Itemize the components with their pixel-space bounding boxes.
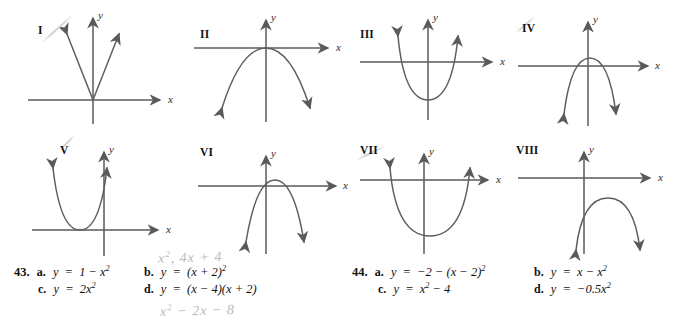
exercise-43-number: 43. <box>14 265 30 279</box>
graph-III-label: III <box>360 28 374 40</box>
exercise-43-d-letter: d. <box>144 282 154 296</box>
graph-VII-y-label: y <box>428 145 434 157</box>
graph-III-x-label: x <box>499 55 505 67</box>
graph-I-y-label: y <box>97 9 103 21</box>
exercise-44-b-rel: = <box>563 265 571 279</box>
parabola-curve <box>576 198 640 250</box>
axes <box>32 152 158 256</box>
pencil-annotation-expansion-bottom: x2 − 2x − 8 <box>160 302 235 320</box>
exercise-43-c-lhs: y <box>53 282 59 296</box>
graph-II: II x y <box>186 4 356 134</box>
exercise-43-a-letter: a. <box>37 265 46 279</box>
parabola-curve <box>390 168 470 236</box>
graph-II-label: II <box>200 28 209 40</box>
graph-VI-y-label: y <box>270 147 276 159</box>
parabola-curve <box>53 168 107 230</box>
exercise-43-b-rhs: (x + 2)2 <box>187 265 226 279</box>
graph-VIII-y-label: y <box>588 143 594 155</box>
exercise-44-c-lhs: y <box>393 282 399 296</box>
graph-III-y-label: y <box>432 11 438 23</box>
exercise-44-b-letter: b. <box>534 265 544 279</box>
exercise-44-d-lhs: y <box>551 282 557 296</box>
axes <box>518 22 648 126</box>
graph-IV: IV x y <box>508 4 677 134</box>
exercise-43-a-lhs: y <box>53 265 59 279</box>
graph-I: I x y <box>18 4 188 134</box>
axes <box>198 156 336 254</box>
worksheet-page: I x y II <box>0 0 677 333</box>
axes <box>360 20 492 120</box>
exercise-44-c-rel: = <box>405 282 413 296</box>
exercise-43-a-rhs: 1 − x2 <box>79 265 110 279</box>
graph-V: V x y <box>18 138 188 268</box>
graph-VI-label: VI <box>200 146 213 158</box>
exercise-43-b-rel: = <box>173 265 181 279</box>
exercise-44-a-letter: a. <box>375 265 384 279</box>
graph-VII-label: VII <box>360 144 378 156</box>
graph-VIII-label: VIII <box>516 144 539 156</box>
exercise-44-c-letter: c. <box>378 282 386 296</box>
exercise-43-b-lhs: y <box>161 265 167 279</box>
graph-II-y-label: y <box>270 11 276 23</box>
exercise-44-a-rhs: −2 − (x − 2)2 <box>417 265 485 279</box>
graph-VII-x-label: x <box>495 173 501 185</box>
graph-III: III x y <box>352 4 522 134</box>
exercise-43-a-rel: = <box>65 265 73 279</box>
exercise-43-item-c: c. y = 2x2 <box>38 283 96 296</box>
graph-IV-y-label: y <box>592 13 598 25</box>
pencil-annotation-expansion-top: x2, 4x + 4 <box>158 249 223 267</box>
exercise-44-number: 44. <box>352 265 368 279</box>
graph-VII-plot: x y <box>352 138 522 268</box>
graph-VIII-x-label: x <box>657 171 663 183</box>
exercise-44-b-rhs: x − x2 <box>577 265 607 279</box>
parabola-curve <box>246 180 304 242</box>
axes <box>518 152 650 254</box>
exercise-44-item-b: b. y = x − x2 <box>534 266 607 279</box>
graph-I-x-label: x <box>167 93 173 105</box>
axes <box>360 154 488 254</box>
exercise-44-item-c: c. y = x2 − 4 <box>378 283 450 296</box>
exercise-43-c-rhs: 2x2 <box>80 282 96 296</box>
axes <box>28 18 160 124</box>
exercise-43-item-b: b. y = (x + 2)2 <box>144 266 226 279</box>
exercise-44-a-lhs: y <box>391 265 397 279</box>
graph-III-plot: x y <box>352 4 522 134</box>
exercise-44-d-rhs: −0.5x2 <box>577 282 611 296</box>
exercise-43-item-a: 43. a. y = 1 − x2 <box>14 266 110 279</box>
graph-V-plot: x y <box>18 138 188 268</box>
graph-V-x-label: x <box>165 223 171 235</box>
exercise-44-a-rel: = <box>403 265 411 279</box>
graph-II-x-label: x <box>335 41 341 53</box>
exercise-43-c-rel: = <box>65 282 73 296</box>
graph-V-y-label: y <box>108 143 114 155</box>
graph-I-plot: x y <box>18 4 188 134</box>
graph-I-label: I <box>38 24 43 36</box>
graph-V-label: V <box>60 144 69 156</box>
graph-IV-label: IV <box>522 22 535 34</box>
graph-IV-x-label: x <box>654 59 660 71</box>
exercise-43-d-lhs: y <box>161 282 167 296</box>
graph-VIII-plot: x y <box>506 138 676 268</box>
exercise-43-b-letter: b. <box>144 265 154 279</box>
exercise-44-d-rel: = <box>563 282 571 296</box>
exercise-43-d-rel: = <box>173 282 181 296</box>
exercise-44-item-d: d. y = −0.5x2 <box>534 283 611 296</box>
exercise-44-d-letter: d. <box>534 282 544 296</box>
graph-VIII: VIII x y <box>506 138 676 268</box>
exercise-44-b-lhs: y <box>551 265 557 279</box>
exercise-43-item-d: d. y = (x − 4)(x + 2) <box>144 283 257 296</box>
exercise-43-d-rhs: (x − 4)(x + 2) <box>187 282 257 296</box>
exercise-44-c-rhs: x2 − 4 <box>420 282 451 296</box>
graph-VII: VII x y <box>352 138 522 268</box>
graph-VI-x-label: x <box>342 179 348 191</box>
exercise-44-item-a: 44. a. y = −2 − (x − 2)2 <box>352 266 485 279</box>
exercise-43-c-letter: c. <box>38 282 46 296</box>
axes <box>194 20 328 122</box>
graph-II-plot: x y <box>186 4 356 134</box>
